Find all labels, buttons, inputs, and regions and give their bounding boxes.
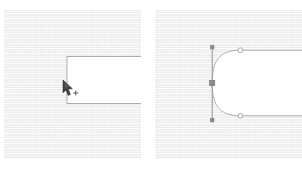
- shape-fill-left: [68, 57, 142, 104]
- before-panel-artwork: [4, 10, 141, 159]
- control-point-bottom[interactable]: [238, 113, 243, 118]
- before-panel: [4, 10, 141, 159]
- handle-end-top[interactable]: [210, 45, 214, 49]
- anchor-point-selected[interactable]: [210, 80, 215, 85]
- after-panel: [155, 10, 302, 159]
- after-panel-artwork: [155, 10, 302, 159]
- illustration-stage: [0, 0, 302, 169]
- handle-end-bottom[interactable]: [210, 118, 214, 122]
- control-point-top[interactable]: [238, 48, 243, 53]
- shape-fill-right: [212, 50, 302, 116]
